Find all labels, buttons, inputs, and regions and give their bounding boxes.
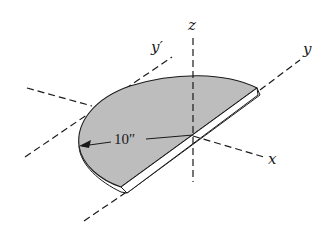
x-axis-label: x: [268, 152, 276, 167]
z-axis-label: z: [188, 18, 196, 33]
radius-dimension-label: 10″: [113, 132, 136, 147]
y-axis-label: y: [303, 42, 311, 57]
plate-figure: [0, 0, 324, 231]
diagram-canvas: z y′ y x 10″: [0, 0, 324, 231]
y-axis-lower: [84, 191, 128, 221]
left-dashed-line: [27, 88, 92, 106]
y-prime-axis-label: y′: [151, 40, 163, 55]
plate-face: [79, 76, 257, 187]
x-axis: [193, 136, 264, 157]
y-axis-upper: [260, 60, 300, 90]
